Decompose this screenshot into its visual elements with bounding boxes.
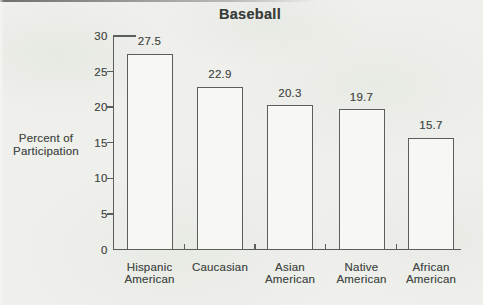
x-category-label: AfricanAmerican <box>386 261 476 286</box>
bar <box>339 109 385 250</box>
x-category-label-line: African <box>386 261 476 273</box>
bar <box>408 138 454 251</box>
y-tick-label: 20 <box>78 100 108 114</box>
chart-title: Baseball <box>150 6 350 22</box>
x-category-label-line: American <box>386 273 476 285</box>
bar-value-label: 22.9 <box>190 68 250 81</box>
bar <box>267 105 313 250</box>
bar-value-label: 19.7 <box>332 91 392 104</box>
y-tick-label: 15 <box>78 136 108 150</box>
scan-artifact-left-edge <box>0 0 4 305</box>
y-tick-label: 25 <box>78 65 108 79</box>
y-tick-mark <box>107 213 113 214</box>
y-tick-label: 10 <box>78 171 108 185</box>
x-category-label-line: American <box>105 273 195 285</box>
bar-value-label: 27.5 <box>120 35 180 48</box>
y-tick-mark <box>107 142 113 143</box>
bar <box>127 54 173 251</box>
y-tick-mark <box>107 71 113 72</box>
bar-value-label: 20.3 <box>260 87 320 100</box>
y-tick-label: 30 <box>78 29 108 43</box>
scanned-page: Baseball Percent of Participation 051015… <box>0 0 483 305</box>
y-tick-mark <box>107 106 113 107</box>
y-tick-label: 5 <box>78 207 108 221</box>
bar <box>197 87 243 251</box>
x-tick-mark <box>325 244 326 250</box>
x-tick-mark <box>396 244 397 250</box>
y-tick-label: 0 <box>78 243 108 257</box>
y-axis-title-line2: Participation <box>8 145 84 158</box>
y-axis-title: Percent of Participation <box>8 132 84 158</box>
y-tick-mark <box>107 178 113 179</box>
y-axis-title-line1: Percent of <box>8 132 84 145</box>
x-tick-mark <box>184 244 185 250</box>
scan-artifact-top-edge <box>0 0 318 2</box>
bar-value-label: 15.7 <box>401 119 461 132</box>
x-tick-mark <box>254 244 255 250</box>
